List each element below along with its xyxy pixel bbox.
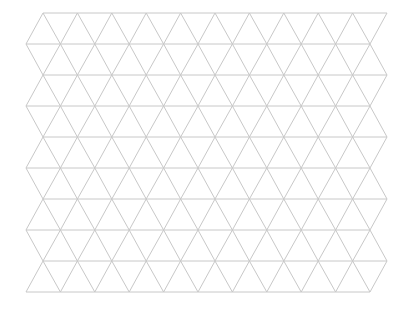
grid-lines [26, 13, 387, 292]
triangle-grid-canvas [0, 0, 412, 317]
triangular-grid [0, 0, 412, 317]
